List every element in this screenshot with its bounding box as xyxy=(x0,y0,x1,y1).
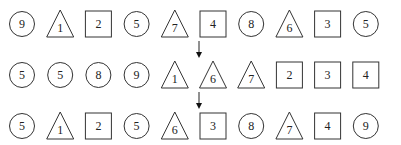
item-number: 9 xyxy=(19,17,25,31)
item-number: 1 xyxy=(172,72,178,86)
circle-item: 5 xyxy=(10,63,35,88)
circle-item: 5 xyxy=(124,12,149,37)
item-number: 5 xyxy=(19,68,25,82)
item-number: 3 xyxy=(325,17,331,31)
item-number: 9 xyxy=(363,119,369,133)
triangle-item: 7 xyxy=(161,10,188,37)
triangle-item: 1 xyxy=(47,112,74,139)
triangle-item: 7 xyxy=(238,61,265,88)
square-item: 4 xyxy=(315,113,341,139)
item-number: 8 xyxy=(248,17,254,31)
circle-item: 8 xyxy=(239,114,264,139)
square-item: 2 xyxy=(85,113,111,139)
row-2: 5589167234 xyxy=(10,61,379,88)
circle-item: 5 xyxy=(124,114,149,139)
row-3: 5125638749 xyxy=(10,112,379,139)
triangle-item: 6 xyxy=(200,61,227,88)
circle-item: 5 xyxy=(48,63,73,88)
item-number: 2 xyxy=(95,17,101,31)
item-number: 1 xyxy=(57,123,63,137)
triangle-item: 1 xyxy=(161,61,188,88)
item-number: 8 xyxy=(95,68,101,82)
item-number: 3 xyxy=(325,68,331,82)
item-number: 4 xyxy=(325,119,331,133)
square-item: 3 xyxy=(315,11,341,37)
circle-item: 5 xyxy=(353,12,378,37)
square-item: 2 xyxy=(276,62,302,88)
square-item: 4 xyxy=(353,62,379,88)
circle-item: 8 xyxy=(86,63,111,88)
item-number: 4 xyxy=(210,17,216,31)
arrowhead-icon xyxy=(196,52,202,58)
rows-group: 912574863555891672345125638749 xyxy=(10,10,379,139)
circle-item: 5 xyxy=(10,114,35,139)
item-number: 9 xyxy=(134,68,140,82)
item-number: 5 xyxy=(363,17,369,31)
item-number: 5 xyxy=(57,68,63,82)
item-number: 2 xyxy=(286,68,292,82)
item-number: 6 xyxy=(210,72,216,86)
item-number: 7 xyxy=(286,123,292,137)
item-number: 8 xyxy=(248,119,254,133)
item-number: 5 xyxy=(134,17,140,31)
square-item: 4 xyxy=(200,11,226,37)
item-number: 7 xyxy=(248,72,254,86)
triangle-item: 7 xyxy=(276,112,303,139)
arrowhead-icon xyxy=(196,103,202,109)
row-1: 9125748635 xyxy=(10,10,379,37)
item-number: 5 xyxy=(19,119,25,133)
circle-item: 9 xyxy=(353,114,378,139)
item-number: 6 xyxy=(172,123,178,137)
circle-item: 8 xyxy=(239,12,264,37)
item-number: 4 xyxy=(363,68,369,82)
square-item: 3 xyxy=(200,113,226,139)
item-number: 5 xyxy=(134,119,140,133)
circle-item: 9 xyxy=(124,63,149,88)
shape-sorting-diagram: 912574863555891672345125638749 xyxy=(0,0,401,145)
item-number: 1 xyxy=(57,21,63,35)
triangle-item: 6 xyxy=(161,112,188,139)
circle-item: 9 xyxy=(10,12,35,37)
item-number: 7 xyxy=(172,21,178,35)
triangle-item: 6 xyxy=(276,10,303,37)
square-item: 3 xyxy=(315,62,341,88)
item-number: 3 xyxy=(210,119,216,133)
triangle-item: 1 xyxy=(47,10,74,37)
item-number: 2 xyxy=(95,119,101,133)
arrows-group xyxy=(196,41,202,109)
square-item: 2 xyxy=(85,11,111,37)
item-number: 6 xyxy=(286,21,292,35)
